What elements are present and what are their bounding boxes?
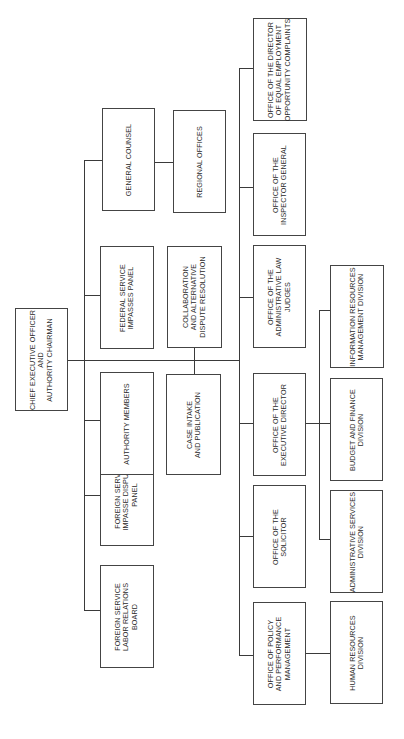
label-fslrb: FOREIGN SERVICE LABOR RELATIONS BOARD xyxy=(114,582,139,650)
connector-gc xyxy=(84,160,102,161)
box-inspector-general: OFFICE OF THE INSPECTOR GENERAL xyxy=(253,133,306,236)
label-exec-director: OFFICE OF THE EXECUTIVE DIRECTOR xyxy=(271,384,288,466)
connector-opm xyxy=(239,655,253,656)
connector-ed-budget xyxy=(319,423,330,424)
upper-spine xyxy=(84,160,85,610)
label-authority-members: AUTHORITY MEMBERS xyxy=(123,383,131,464)
connector-fsip xyxy=(84,295,100,296)
label-info-resources: INFORMATION RESOURCES MANAGEMENT DIVISIO… xyxy=(349,267,366,366)
label-opm: OFFICE OF POLICY AND PERFORMANCE MANAGEM… xyxy=(267,616,292,691)
label-admin-services: ADMINISTRATIVE SERVICES DIVISION xyxy=(348,491,365,591)
label-alj: OFFICE OF THE ADMINISTRATIVE LAW JUDGES xyxy=(267,257,292,336)
box-admin-services: ADMINISTRATIVE SERVICES DIVISION xyxy=(330,490,383,593)
box-collaboration: COLLABORATION AND ALTERNATIVE DISPUTE RE… xyxy=(167,246,222,348)
connector-ed-admin xyxy=(319,539,330,540)
label-fsip: FEDERAL SERVICE IMPASSES PANEL xyxy=(119,264,136,332)
box-regional-offices: REGIONAL OFFICES xyxy=(173,110,226,213)
lower-spine xyxy=(239,68,240,655)
connector-root-ext xyxy=(178,360,239,361)
connector-exec-dir xyxy=(239,423,253,424)
box-fsip: FEDERAL SERVICE IMPASSES PANEL xyxy=(100,246,154,349)
label-ceo: CHIEF EXECUTIVE OFFICER AND AUTHORITY CH… xyxy=(29,309,54,409)
label-hr-division: HUMAN RESOURCES DIVISION xyxy=(348,615,365,690)
box-solicitor: OFFICE OF THE SOLICITOR xyxy=(253,485,306,588)
connector-opm-hr xyxy=(306,653,330,654)
connector-alj xyxy=(239,297,253,298)
box-alj: OFFICE OF THE ADMINISTRATIVE LAW JUDGES xyxy=(253,245,306,348)
connector-middle xyxy=(194,348,195,374)
label-eeo: OFFICE OF THE DIRECTOR OF EQUAL EMPLOYME… xyxy=(267,18,292,121)
box-case-intake: CASE INTAKE AND PUBLICATION xyxy=(166,374,221,475)
box-authority-members: AUTHORITY MEMBERS xyxy=(100,372,154,475)
label-regional-offices: REGIONAL OFFICES xyxy=(195,126,203,198)
connector-ig xyxy=(239,187,253,188)
exec-dir-spine xyxy=(319,310,320,539)
box-eeo: OFFICE OF THE DIRECTOR OF EQUAL EMPLOYME… xyxy=(253,18,307,121)
box-info-resources: INFORMATION RESOURCES MANAGEMENT DIVISIO… xyxy=(330,265,384,368)
connector-gc-regional xyxy=(155,162,173,163)
box-budget-finance: BUDGET AND FINANCE DIVISION xyxy=(330,378,383,481)
label-solicitor: OFFICE OF THE SOLICITOR xyxy=(271,509,288,565)
connector-eeo xyxy=(239,68,253,69)
box-opm: OFFICE OF POLICY AND PERFORMANCE MANAGEM… xyxy=(253,602,306,705)
label-inspector-general: OFFICE OF THE INSPECTOR GENERAL xyxy=(271,145,288,225)
box-ceo: CHIEF EXECUTIVE OFFICER AND AUTHORITY CH… xyxy=(15,308,68,411)
box-general-counsel: GENERAL COUNSEL xyxy=(102,108,155,211)
connector-ed-info xyxy=(319,310,330,311)
label-budget-finance: BUDGET AND FINANCE DIVISION xyxy=(348,389,365,471)
box-fslrb: FOREIGN SERVICE LABOR RELATIONS BOARD xyxy=(100,565,154,668)
label-general-counsel: GENERAL COUNSEL xyxy=(124,123,132,195)
connector-fslrb xyxy=(84,610,100,611)
box-exec-director: OFFICE OF THE EXECUTIVE DIRECTOR xyxy=(253,373,306,476)
connector-fsidp xyxy=(84,495,100,496)
box-hr-division: HUMAN RESOURCES DIVISION xyxy=(330,601,383,704)
connector-solicitor xyxy=(239,536,253,537)
connector-ed-spine xyxy=(306,423,319,424)
connector-auth-members xyxy=(84,420,100,421)
label-collaboration: COLLABORATION AND ALTERNATIVE DISPUTE RE… xyxy=(182,256,207,338)
label-case-intake: CASE INTAKE AND PUBLICATION xyxy=(185,391,202,457)
